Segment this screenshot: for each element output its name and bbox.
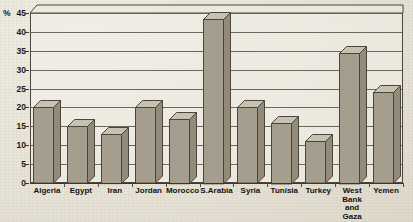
bar bbox=[33, 107, 53, 183]
x-axis-labels: AlgeriaEgyptIranJordanMoroccoS.ArabiaSyr… bbox=[30, 185, 403, 222]
y-axis: 051015202530354045% bbox=[0, 0, 30, 222]
x-axis-category-label: Morocco bbox=[166, 187, 200, 196]
y-tick-mark bbox=[25, 13, 29, 14]
x-axis-category-label: Syria bbox=[233, 187, 267, 196]
bar-chart: 051015202530354045% AlgeriaEgyptIranJord… bbox=[0, 0, 413, 222]
x-tick-mark bbox=[132, 183, 133, 187]
x-tick-mark bbox=[200, 183, 201, 187]
x-axis-category-label: Tunisia bbox=[267, 187, 301, 196]
bar bbox=[135, 107, 155, 183]
y-tick-mark bbox=[25, 145, 29, 146]
bar bbox=[271, 123, 291, 183]
bar bbox=[101, 134, 121, 183]
x-tick-mark bbox=[301, 183, 302, 187]
bar bbox=[203, 19, 223, 183]
y-tick-mark bbox=[25, 126, 29, 127]
y-axis-unit-label: % bbox=[3, 8, 11, 18]
x-axis-line bbox=[30, 183, 403, 184]
x-axis-category-label: S.Arabia bbox=[200, 187, 234, 196]
y-tick-mark bbox=[25, 107, 29, 108]
bar bbox=[339, 53, 359, 183]
x-axis-category-label: Jordan bbox=[132, 187, 166, 196]
x-tick-mark bbox=[64, 183, 65, 187]
bar-series bbox=[30, 5, 403, 183]
bar bbox=[373, 92, 393, 183]
x-tick-mark bbox=[233, 183, 234, 187]
x-axis-category-label: Egypt bbox=[64, 187, 98, 196]
y-tick-mark bbox=[25, 32, 29, 33]
x-tick-mark bbox=[267, 183, 268, 187]
y-tick-mark bbox=[25, 89, 29, 90]
x-axis-category-label: West Bank and Gaza bbox=[335, 187, 369, 221]
x-tick-mark bbox=[335, 183, 336, 187]
x-axis-category-label: Iran bbox=[98, 187, 132, 196]
x-axis-category-label: Algeria bbox=[30, 187, 64, 196]
bar bbox=[67, 126, 87, 183]
bar bbox=[237, 107, 257, 183]
bar bbox=[305, 141, 325, 183]
y-tick-mark bbox=[25, 70, 29, 71]
x-tick-mark bbox=[166, 183, 167, 187]
y-tick-mark bbox=[25, 164, 29, 165]
bar bbox=[169, 119, 189, 183]
x-axis-category-label: Turkey bbox=[301, 187, 335, 196]
x-tick-mark bbox=[369, 183, 370, 187]
y-tick-mark bbox=[25, 51, 29, 52]
x-tick-mark bbox=[403, 183, 404, 187]
y-tick-mark bbox=[25, 183, 29, 184]
x-axis-category-label: Yemen bbox=[369, 187, 403, 196]
x-tick-mark bbox=[98, 183, 99, 187]
